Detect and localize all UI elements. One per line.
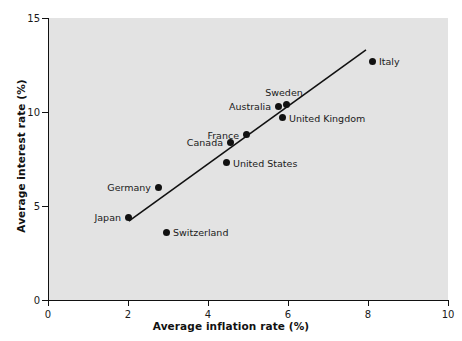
point-label-italy: Italy	[379, 56, 400, 67]
data-point-united-states[interactable]	[223, 159, 230, 166]
x-tick-label-10: 10	[442, 309, 455, 320]
x-tick-label-4: 4	[205, 309, 211, 320]
point-label-sweden: Sweden	[265, 87, 303, 98]
point-label-switzerland: Switzerland	[173, 227, 228, 238]
data-point-france[interactable]	[243, 131, 250, 138]
data-point-switzerland[interactable]	[163, 229, 170, 236]
point-label-japan: Japan	[95, 212, 122, 223]
data-point-united-kingdom[interactable]	[279, 114, 286, 121]
y-tick-label-0: 0	[14, 295, 40, 306]
data-point-japan[interactable]	[125, 214, 132, 221]
point-label-australia: Australia	[229, 101, 271, 112]
x-tick-label-6: 6	[285, 309, 291, 320]
data-point-australia[interactable]	[275, 103, 282, 110]
point-label-france: France	[207, 129, 239, 140]
data-point-italy[interactable]	[369, 58, 376, 65]
point-label-united-kingdom: United Kingdom	[289, 112, 365, 123]
scatter-chart-figure: 051015 0246810 JapanGermanySwitzerlandUn…	[0, 0, 462, 341]
y-tick-label-15: 15	[14, 13, 40, 24]
x-axis-title: Average inflation rate (%)	[0, 320, 462, 332]
point-label-united-states: United States	[233, 157, 297, 168]
x-tick-label-2: 2	[125, 309, 131, 320]
x-tick-label-0: 0	[45, 309, 51, 320]
point-label-germany: Germany	[107, 182, 151, 193]
data-point-germany[interactable]	[155, 184, 162, 191]
x-tick-label-8: 8	[365, 309, 371, 320]
data-point-sweden[interactable]	[283, 101, 290, 108]
y-axis-title: Average interest rate (%)	[15, 56, 27, 256]
